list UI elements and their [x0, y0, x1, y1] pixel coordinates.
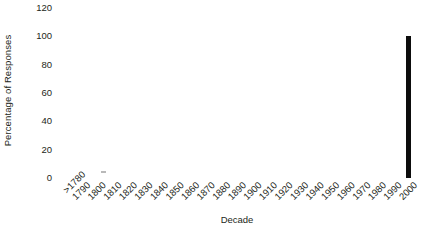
y-axis-title-label: Percentage of Responses — [3, 34, 14, 146]
y-axis-tick-label: 20 — [41, 145, 52, 155]
y-axis-tick-label: 120 — [36, 3, 52, 13]
y-axis-tick-label: 100 — [36, 32, 52, 42]
y-axis-title: Percentage of Responses — [0, 0, 16, 180]
y-axis-tick-label: 60 — [41, 88, 52, 98]
y-axis-tick-label: 40 — [41, 117, 52, 127]
bar-chart: Percentage of Responses 020406080100120 … — [0, 0, 422, 232]
y-axis-tick-labels: 020406080100120 — [16, 0, 58, 232]
stray-tick-mark — [101, 171, 106, 173]
y-axis-tick-label: 80 — [41, 60, 52, 70]
bar — [406, 36, 411, 178]
x-axis-title: Decade — [58, 214, 416, 225]
plot-area — [58, 8, 416, 178]
y-axis-tick-label: 0 — [47, 173, 52, 183]
